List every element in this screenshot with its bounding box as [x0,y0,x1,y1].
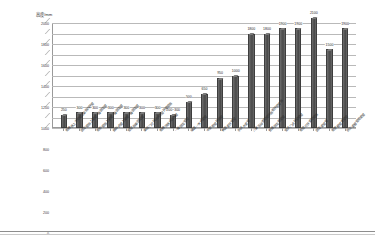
bar-value-label: 650 [201,88,207,92]
x-axis-category-label: 带槽顶板式出入窗 [160,131,162,133]
bar-value-label: 1800 [247,28,255,32]
x-axis-category-label: 带窗可开宽带窗扇 [300,131,302,133]
y-axis-tick-label: 1400 [41,85,49,89]
bar[interactable] [342,28,348,128]
bar-item[interactable]: 200~300 [165,23,181,128]
bar-item[interactable]: 300 [134,23,150,128]
y-axis-tick-label: 1600 [41,64,49,68]
page: 高度/mm 0200400600800100012001400160018002… [0,0,375,241]
bar-item[interactable]: 1900 [290,23,306,128]
bottom-divider [0,231,375,232]
bar-value-label: 300 [154,107,160,111]
bar[interactable] [61,115,67,128]
x-axis-category-label: 固定宽窗窗 [316,131,318,133]
bar-value-label: 200~300 [166,109,180,113]
bar-value-label: 300 [107,107,113,111]
bar-value-label: 500 [186,96,192,100]
bar-item[interactable]: 950 [212,23,228,128]
bar-value-label: 300 [123,107,129,111]
bar-value-label: 1900 [341,23,349,27]
x-axis-category-label: 一般固定窗窗 [175,131,177,133]
bar-value-label: 1800 [263,28,271,32]
bar-value-label: 1900 [278,23,286,27]
bar-item[interactable]: 500 [181,23,197,128]
x-axis-category-label: 窗窗扇单固定窗 [128,131,130,133]
y-axis-tick-label: 200 [43,211,49,215]
bar-value-label: 300 [139,107,145,111]
y-axis-title: 高度/mm [36,11,52,17]
bar-value-label: 2100 [310,12,318,16]
x-axis-category-label: 杂式大宽窗 [238,131,240,133]
bar[interactable] [326,49,332,128]
bar-item[interactable]: 1000 [228,23,244,128]
bar-value-label: 1000 [231,70,239,74]
x-axis-category-label: 墙面一字式宽窗 [191,131,193,133]
x-axis-category-label: 带槽板上方带窗口单扇内开窗 [66,131,68,133]
bar-value-label: 250 [61,109,67,113]
bar-item[interactable]: 1900 [275,23,291,128]
x-axis-category-label: 带室屋窗宽窗窗 [332,131,334,133]
x-axis-category-label: 侧面宽开窗窗 [222,131,224,133]
y-axis-tick-label: 1800 [41,43,49,47]
bar-value-label: 1900 [294,23,302,27]
y-axis-tick-label: 1200 [41,106,49,110]
y-axis-tick-label: 800 [43,148,49,152]
bottom-divider-secondary [0,234,375,235]
bar-item[interactable]: 1800 [244,23,260,128]
bar-item[interactable]: 1900 [337,23,353,128]
x-axis-category-label: 带形窗扇上部窗一般固定窗 [97,131,99,133]
bar-item[interactable]: 650 [197,23,213,128]
x-axis-category-label: 防火宽屋窗带宽窗 [347,131,349,133]
bar-item[interactable]: 1500 [322,23,338,128]
y-axis-tick-label: 400 [43,190,49,194]
y-axis-tick-label: 600 [43,169,49,173]
x-axis-category-label: 普通固定带宽窗 [269,131,271,133]
bar-value-label: 1500 [325,44,333,48]
x-axis-category-label: 窗式门式开窗窗窗 [285,131,287,133]
y-axis-tick-label: 1000 [41,127,49,131]
x-axis-category-label: 固定窗扇上部窗一般固定窗 [81,131,83,133]
bar[interactable] [311,18,317,128]
x-axis-category-label: 自由式窗上部窗一般固定窗 [113,131,115,133]
bar-chart: 高度/mm 0200400600800100012001400160018002… [0,0,375,241]
y-axis-tick-label: 2000 [41,22,49,26]
x-axis-category-label: 儿童活动室带窗开扇带开窗窗扇 [253,131,255,133]
bar[interactable] [248,34,254,129]
bar[interactable] [186,102,192,128]
x-axis-category-label: 中央带窗开扇窗 [207,131,209,133]
bar-value-label: 300 [76,107,82,111]
bar[interactable] [279,28,285,128]
bar-value-label: 950 [217,72,223,76]
bar-item[interactable]: 250 [56,23,72,128]
x-axis-category-label: 单扇门可开闭式大窗开窗窗扇 [144,131,146,133]
